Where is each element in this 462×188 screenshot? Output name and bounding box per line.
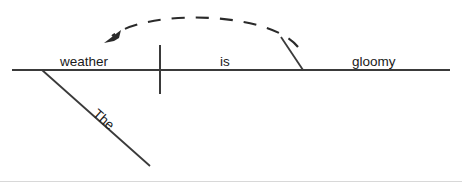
modifier-reference-arc (112, 18, 298, 47)
arc-arrowhead (104, 30, 121, 43)
predicate-adjective-label: gloomy (352, 54, 396, 69)
verb-label: is (220, 54, 230, 69)
article-modifier-label: The (90, 106, 117, 133)
diagram-canvas: weather is gloomy The (0, 0, 462, 188)
subject-label: weather (59, 54, 109, 69)
sentence-diagram: weather is gloomy The (0, 0, 462, 188)
